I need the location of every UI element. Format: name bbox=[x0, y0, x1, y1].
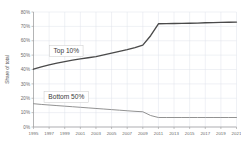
y-tick-label: 50% bbox=[21, 53, 30, 58]
y-tick-label: 70% bbox=[21, 24, 30, 29]
x-tick-label: 2019 bbox=[216, 131, 226, 136]
y-axis-tick-labels: 0%10%20%30%40%50%60%70%80% bbox=[21, 10, 30, 130]
y-tick-label: 30% bbox=[21, 82, 30, 87]
y-tick-label: 0% bbox=[23, 125, 30, 130]
x-tick-label: 2017 bbox=[200, 131, 210, 136]
data-series-lines bbox=[34, 22, 237, 117]
chart-canvas: 0%10%20%30%40%50%60%70%80% 1995199719992… bbox=[0, 0, 241, 146]
x-tick-label: 2013 bbox=[169, 131, 179, 136]
y-tick-label: 60% bbox=[21, 38, 30, 43]
x-tick-label: 2005 bbox=[107, 131, 117, 136]
series-line-bottom-50 bbox=[34, 104, 237, 118]
share-of-total-line-chart: 0%10%20%30%40%50%60%70%80% 1995199719992… bbox=[0, 0, 241, 146]
grid-lines bbox=[34, 12, 237, 127]
x-tick-label: 2007 bbox=[122, 131, 132, 136]
x-tick-label: 1995 bbox=[29, 131, 39, 136]
y-tick-label: 80% bbox=[21, 10, 30, 15]
y-tick-label: 40% bbox=[21, 67, 30, 72]
series-annotation-label: Bottom 50% bbox=[48, 93, 84, 100]
y-tick-label: 20% bbox=[21, 96, 30, 101]
series-annotation-label: Top 10% bbox=[53, 47, 79, 55]
series-annotations: Top 10%Bottom 50% bbox=[44, 45, 89, 102]
x-tick-label: 2009 bbox=[138, 131, 148, 136]
x-tick-label: 2021 bbox=[232, 131, 241, 136]
x-tick-label: 2015 bbox=[185, 131, 195, 136]
x-axis-tick-labels: 1995199719992001200320052007200920112013… bbox=[29, 131, 241, 136]
x-tick-label: 1997 bbox=[44, 131, 54, 136]
x-tick-label: 2001 bbox=[75, 131, 85, 136]
x-tick-label: 2003 bbox=[91, 131, 101, 136]
y-tick-label: 10% bbox=[21, 110, 30, 115]
x-tick-label: 1999 bbox=[60, 131, 70, 136]
y-axis-title-label: Share of total bbox=[5, 55, 10, 84]
x-tick-label: 2011 bbox=[154, 131, 164, 136]
y-axis-title: Share of total bbox=[5, 55, 10, 84]
